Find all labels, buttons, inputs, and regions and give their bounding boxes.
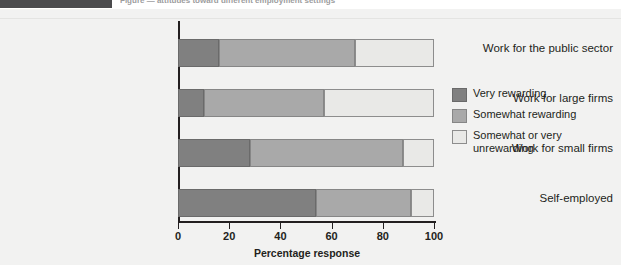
x-axis-tick <box>383 223 384 229</box>
x-axis-tick-label: 0 <box>158 230 198 243</box>
legend-swatch-icon-1 <box>452 109 467 123</box>
bar-segment[interactable] <box>324 89 434 117</box>
legend-label-0: Very rewarding <box>473 87 612 100</box>
category-label-3: Self-employed <box>445 191 621 205</box>
bar-segment[interactable] <box>250 139 404 167</box>
x-axis-tick <box>280 223 281 229</box>
bar-segment[interactable] <box>178 89 204 117</box>
bar-segment[interactable] <box>403 139 434 167</box>
bar-segment[interactable] <box>178 189 316 217</box>
figure-header-tab <box>0 0 112 8</box>
legend-item-0[interactable]: Very rewarding <box>452 87 612 104</box>
x-axis-tick <box>332 223 333 229</box>
x-axis-tick-label: 60 <box>312 230 352 243</box>
legend-item-2[interactable]: Somewhat or very unrewarding <box>452 129 612 155</box>
x-axis-tick-label: 80 <box>363 230 403 243</box>
figure-caption: Figure — attitudes toward different empl… <box>120 0 335 5</box>
legend-item-1[interactable]: Somewhat rewarding <box>452 108 612 125</box>
bar-segment[interactable] <box>316 189 411 217</box>
x-axis-tick <box>229 223 230 229</box>
bar-segment[interactable] <box>204 89 324 117</box>
x-axis-tick <box>434 223 435 229</box>
page-divider <box>0 18 621 19</box>
x-axis-tick-label: 40 <box>260 230 300 243</box>
figure-body: Work for the public sector Work for larg… <box>0 9 621 265</box>
legend-label-1: Somewhat rewarding <box>473 108 612 121</box>
bar-segment[interactable] <box>219 39 355 67</box>
x-axis-line <box>178 221 436 223</box>
legend-swatch-icon-2 <box>452 130 467 144</box>
bar-segment[interactable] <box>178 39 219 67</box>
x-axis-tick-label: 100 <box>414 230 454 243</box>
chart-legend: Very rewarding Somewhat rewarding Somewh… <box>452 87 612 159</box>
category-label-0: Work for the public sector <box>445 41 621 55</box>
bar-segment[interactable] <box>411 189 434 217</box>
legend-label-2: Somewhat or very unrewarding <box>473 129 612 155</box>
bar-segment[interactable] <box>355 39 434 67</box>
bar-segment[interactable] <box>178 139 250 167</box>
plot-area <box>178 21 434 221</box>
x-axis-title: Percentage response <box>178 247 436 259</box>
x-axis-tick <box>178 223 179 229</box>
legend-swatch-icon-0 <box>452 88 467 102</box>
x-axis-tick-label: 20 <box>209 230 249 243</box>
